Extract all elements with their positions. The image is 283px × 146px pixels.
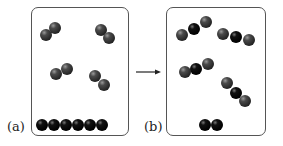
triatomic-molecule bbox=[217, 28, 255, 46]
solid-atom-row bbox=[36, 119, 108, 131]
triatomic-molecule bbox=[176, 16, 212, 41]
triatomic-molecule bbox=[179, 58, 214, 78]
diatomic-molecule bbox=[89, 70, 110, 91]
diatomic-molecule bbox=[50, 63, 73, 80]
remaining-atoms bbox=[199, 119, 223, 131]
reaction-arrow bbox=[136, 70, 161, 75]
molecule-diagram bbox=[0, 0, 283, 146]
diatomic-molecule bbox=[40, 22, 61, 41]
triatomic-molecule bbox=[221, 77, 251, 107]
diatomic-molecule bbox=[95, 24, 115, 44]
